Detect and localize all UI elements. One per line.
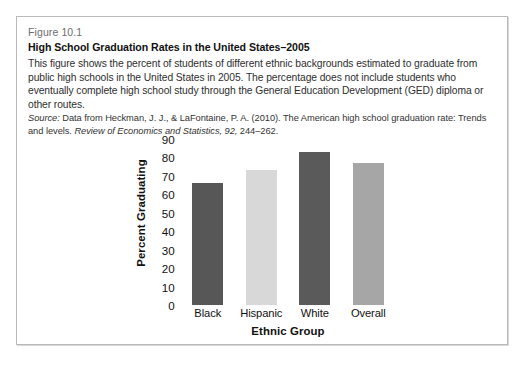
- bar-chart: Percent Graduating 9080706050403020100 B…: [135, 139, 405, 335]
- x-axis-tick-label: Overall: [342, 307, 396, 319]
- bar-slot: [288, 139, 342, 305]
- y-axis-tick-label: 40: [149, 225, 175, 238]
- bar-slot: [235, 139, 289, 305]
- y-axis-tick-label: 30: [149, 243, 175, 256]
- bar-white: [299, 152, 330, 305]
- bar-hispanic: [246, 170, 277, 305]
- x-axis-ticks: BlackHispanicWhiteOverall: [181, 307, 395, 323]
- y-axis-tick-label: 90: [149, 133, 175, 146]
- plot-area: [181, 139, 395, 305]
- x-axis-tick-label: Hispanic: [235, 307, 289, 319]
- bar-slot: [181, 139, 235, 305]
- x-axis-tick-label: Black: [181, 307, 235, 319]
- figure-caption: Figure 10.1 High School Graduation Rates…: [28, 25, 498, 138]
- y-axis-tick-label: 80: [149, 151, 175, 164]
- figure-description: This figure shows the percent of student…: [28, 57, 498, 111]
- bar-black: [192, 183, 223, 305]
- figure-number: Figure 10.1: [28, 25, 498, 39]
- figure-container: Figure 10.1 High School Graduation Rates…: [16, 16, 508, 345]
- y-axis-tick-label: 70: [149, 169, 175, 182]
- x-axis-tick-label: White: [288, 307, 342, 319]
- figure-source: Source: Data from Heckman, J. J., & LaFo…: [28, 112, 498, 137]
- y-axis-tick-label: 50: [149, 206, 175, 219]
- y-axis-ticks: 9080706050403020100: [149, 139, 175, 305]
- figure-title: High School Graduation Rates in the Unit…: [28, 40, 498, 55]
- y-axis-tick-label: 0: [149, 299, 175, 312]
- y-axis-tick-label: 10: [149, 280, 175, 293]
- y-axis-tick-label: 60: [149, 188, 175, 201]
- bar-slot: [342, 139, 396, 305]
- source-text-second: 244–262.: [237, 126, 278, 136]
- bar-overall: [353, 163, 384, 305]
- source-label: Source:: [28, 113, 60, 123]
- y-axis-tick-label: 20: [149, 262, 175, 275]
- y-axis-title: Percent Graduating: [135, 113, 147, 313]
- x-axis-title: Ethnic Group: [181, 325, 395, 337]
